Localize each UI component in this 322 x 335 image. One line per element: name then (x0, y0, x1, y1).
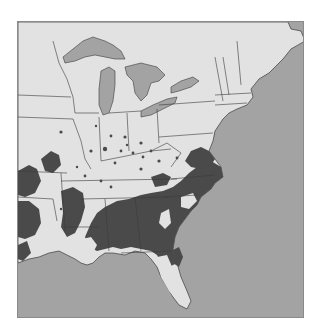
map-frame (17, 21, 304, 318)
eastern-us-map (18, 22, 304, 318)
